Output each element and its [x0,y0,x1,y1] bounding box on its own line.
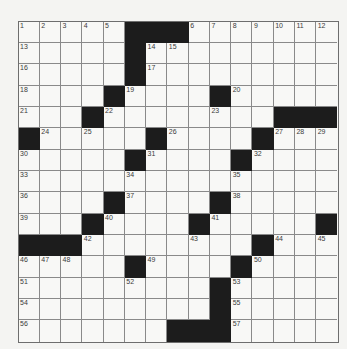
grid-cell[interactable] [104,150,125,171]
grid-cell[interactable] [104,128,125,149]
grid-cell[interactable] [82,320,103,341]
grid-cell[interactable] [146,235,167,256]
grid-cell[interactable] [189,256,210,277]
grid-cell[interactable] [231,107,252,128]
grid-cell[interactable]: 10 [274,22,295,43]
grid-cell[interactable] [82,171,103,192]
grid-cell[interactable]: 48 [61,256,82,277]
grid-cell[interactable] [167,86,188,107]
grid-cell[interactable] [40,214,61,235]
grid-cell[interactable] [146,86,167,107]
grid-cell[interactable]: 22 [104,107,125,128]
grid-cell[interactable] [189,43,210,64]
grid-cell[interactable] [274,64,295,85]
grid-cell[interactable]: 53 [231,278,252,299]
grid-cell[interactable] [252,107,273,128]
grid-cell[interactable] [210,128,231,149]
grid-cell[interactable] [295,150,316,171]
grid-cell[interactable]: 2 [40,22,61,43]
grid-cell[interactable] [295,299,316,320]
grid-cell[interactable]: 35 [231,171,252,192]
grid-cell[interactable] [189,299,210,320]
grid-cell[interactable] [125,107,146,128]
grid-cell[interactable] [82,256,103,277]
grid-cell[interactable]: 26 [167,128,188,149]
grid-cell[interactable] [252,214,273,235]
grid-cell[interactable] [252,192,273,213]
grid-cell[interactable]: 27 [274,128,295,149]
grid-cell[interactable]: 3 [61,22,82,43]
grid-cell[interactable] [210,150,231,171]
grid-cell[interactable] [82,150,103,171]
grid-cell[interactable]: 28 [295,128,316,149]
grid-cell[interactable]: 54 [19,299,40,320]
grid-cell[interactable]: 34 [125,171,146,192]
grid-cell[interactable] [40,171,61,192]
grid-cell[interactable] [82,192,103,213]
grid-cell[interactable] [61,214,82,235]
grid-cell[interactable] [167,256,188,277]
grid-cell[interactable] [40,86,61,107]
grid-cell[interactable] [61,43,82,64]
grid-cell[interactable]: 19 [125,86,146,107]
grid-cell[interactable] [252,86,273,107]
grid-cell[interactable] [125,235,146,256]
grid-cell[interactable]: 49 [146,256,167,277]
grid-cell[interactable] [274,278,295,299]
grid-cell[interactable] [295,86,316,107]
grid-cell[interactable] [167,107,188,128]
grid-cell[interactable] [146,278,167,299]
grid-cell[interactable] [40,320,61,341]
grid-cell[interactable] [104,256,125,277]
grid-cell[interactable]: 47 [40,256,61,277]
grid-cell[interactable] [125,214,146,235]
grid-cell[interactable] [189,128,210,149]
grid-cell[interactable] [295,278,316,299]
grid-cell[interactable] [316,43,337,64]
grid-cell[interactable] [189,64,210,85]
grid-cell[interactable] [61,128,82,149]
grid-cell[interactable] [167,235,188,256]
grid-cell[interactable] [231,214,252,235]
grid-cell[interactable] [295,320,316,341]
grid-cell[interactable] [167,192,188,213]
grid-cell[interactable]: 13 [19,43,40,64]
grid-cell[interactable] [274,320,295,341]
grid-cell[interactable] [274,150,295,171]
grid-cell[interactable] [316,171,337,192]
grid-cell[interactable]: 44 [274,235,295,256]
grid-cell[interactable]: 31 [146,150,167,171]
grid-cell[interactable]: 43 [189,235,210,256]
grid-cell[interactable]: 29 [316,128,337,149]
grid-cell[interactable] [316,299,337,320]
grid-cell[interactable]: 39 [19,214,40,235]
grid-cell[interactable] [231,235,252,256]
grid-cell[interactable]: 41 [210,214,231,235]
grid-cell[interactable] [274,86,295,107]
grid-cell[interactable] [40,64,61,85]
grid-cell[interactable] [61,107,82,128]
grid-cell[interactable] [316,278,337,299]
grid-cell[interactable] [40,107,61,128]
grid-cell[interactable] [82,299,103,320]
grid-cell[interactable]: 7 [210,22,231,43]
grid-cell[interactable]: 56 [19,320,40,341]
grid-cell[interactable]: 23 [210,107,231,128]
grid-cell[interactable] [61,150,82,171]
grid-cell[interactable] [82,86,103,107]
grid-cell[interactable] [189,107,210,128]
grid-cell[interactable] [104,235,125,256]
grid-cell[interactable] [295,235,316,256]
grid-cell[interactable] [252,320,273,341]
grid-cell[interactable] [189,192,210,213]
grid-cell[interactable] [231,128,252,149]
grid-cell[interactable]: 37 [125,192,146,213]
grid-cell[interactable]: 8 [231,22,252,43]
grid-cell[interactable] [146,171,167,192]
grid-cell[interactable] [295,64,316,85]
grid-cell[interactable] [295,192,316,213]
grid-cell[interactable] [104,320,125,341]
grid-cell[interactable] [125,299,146,320]
grid-cell[interactable]: 50 [252,256,273,277]
grid-cell[interactable]: 24 [40,128,61,149]
